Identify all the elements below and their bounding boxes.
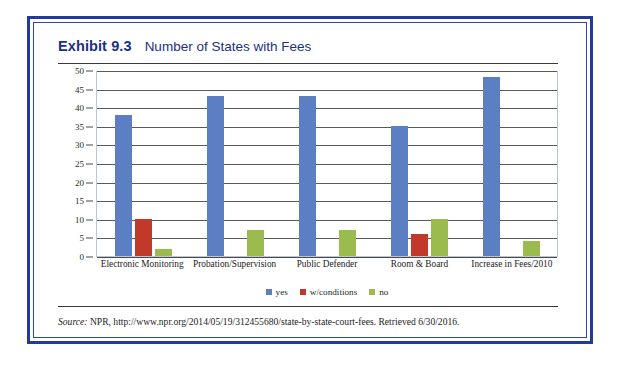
bar-yes <box>207 96 224 256</box>
x-tick-label: Probation/Supervision <box>188 259 280 277</box>
y-tick-mark <box>86 89 93 90</box>
y-tick-mark <box>86 145 93 146</box>
y-tick-mark <box>86 182 93 183</box>
y-tick-mark <box>86 201 93 202</box>
legend-label: no <box>379 287 388 297</box>
source-note: Source: NPR, http://www.npr.org/2014/05/… <box>58 316 563 327</box>
exhibit-frame: Exhibit 9.3Number of States with Fees 05… <box>27 16 593 344</box>
page-title: Number of States with Fees <box>145 39 312 54</box>
legend-item: no <box>369 287 388 297</box>
x-tick-label: Public Defender <box>281 259 373 277</box>
y-tick-label: 50 <box>75 66 84 76</box>
bar-group <box>99 72 187 256</box>
source-divider <box>58 306 558 307</box>
y-tick-label: 10 <box>75 215 84 225</box>
y-tick-label: 15 <box>75 196 84 206</box>
y-tick-label: 5 <box>80 233 85 243</box>
y-tick-label: 25 <box>75 159 84 169</box>
y-tick-label: 35 <box>75 122 84 132</box>
x-axis: Electronic MonitoringProbation/Supervisi… <box>96 259 558 277</box>
y-tick-label: 20 <box>75 178 84 188</box>
bar-no <box>155 249 172 256</box>
legend-item: w/conditions <box>300 287 357 297</box>
source-label: Source: <box>58 316 87 327</box>
source-citation: NPR, http://www.npr.org/2014/05/19/31245… <box>87 316 459 327</box>
exhibit-title-row: Exhibit 9.3Number of States with Fees <box>58 37 311 55</box>
bar-wconditions <box>135 219 152 256</box>
bar-group <box>283 72 371 256</box>
y-tick-label: 30 <box>75 140 84 150</box>
bar-yes <box>391 126 408 256</box>
bars-layer <box>97 72 557 256</box>
exhibit-number: Exhibit 9.3 <box>58 38 132 54</box>
x-tick-label: Electronic Monitoring <box>96 259 188 277</box>
legend-swatch-icon <box>300 289 306 295</box>
x-tick-label: Increase in Fees/2010 <box>466 259 558 277</box>
title-divider-top <box>58 63 558 64</box>
bar-yes <box>299 96 316 256</box>
bar-group <box>375 72 463 256</box>
y-axis: 05101520253035404550 <box>58 71 84 257</box>
y-tick-label: 0 <box>80 252 85 262</box>
legend-swatch-icon <box>369 289 375 295</box>
bar-no <box>339 230 356 256</box>
exhibit-content: Exhibit 9.3Number of States with Fees 05… <box>30 19 590 341</box>
y-tick-mark <box>86 164 93 165</box>
legend-swatch-icon <box>266 289 272 295</box>
chart-legend: yesw/conditionsno <box>96 287 558 297</box>
bar-yes <box>483 77 500 256</box>
bar-yes <box>115 115 132 256</box>
bar-no <box>523 241 540 256</box>
bar-group <box>467 72 555 256</box>
legend-label: yes <box>276 287 288 297</box>
legend-item: yes <box>266 287 288 297</box>
y-tick-label: 40 <box>75 103 84 113</box>
y-tick-mark <box>86 257 93 258</box>
bar-group <box>191 72 279 256</box>
y-tick-mark <box>86 71 93 72</box>
bar-wconditions <box>411 234 428 256</box>
y-tick-mark <box>86 238 93 239</box>
bar-no <box>431 219 448 256</box>
y-tick-mark <box>86 126 93 127</box>
y-tick-label: 45 <box>75 85 84 95</box>
bar-no <box>247 230 264 256</box>
gridline <box>97 257 557 258</box>
x-tick-label: Room & Board <box>373 259 465 277</box>
legend-label: w/conditions <box>310 287 357 297</box>
bar-chart: 05101520253035404550 Electronic Monitori… <box>58 71 560 299</box>
plot-area <box>96 71 558 257</box>
y-tick-mark <box>86 219 93 220</box>
y-tick-mark <box>86 108 93 109</box>
